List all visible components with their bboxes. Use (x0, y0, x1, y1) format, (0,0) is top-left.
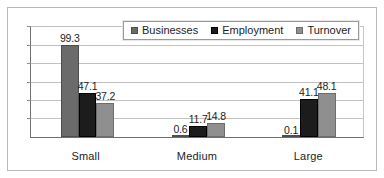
x-axis-labels: Small Medium Large (30, 150, 364, 162)
legend-item-businesses[interactable]: Businesses (131, 24, 198, 36)
legend-swatch-icon (211, 27, 218, 34)
x-axis-label-medium: Medium (141, 150, 252, 162)
bar-value-label: 11.7 (189, 113, 208, 125)
legend-item-employment[interactable]: Employment (211, 24, 283, 36)
bar-employment-small[interactable] (79, 93, 97, 137)
bar-wrap: 41.1 (300, 26, 318, 137)
x-axis-label-small: Small (30, 150, 141, 162)
chart-legend: Businesses Employment Turnover (123, 21, 359, 40)
legend-label: Businesses (142, 24, 198, 36)
bar-value-label: 99.3 (60, 32, 80, 44)
legend-swatch-icon (296, 27, 303, 34)
bar-turnover-small[interactable] (96, 103, 114, 137)
legend-item-turnover[interactable]: Turnover (296, 24, 351, 36)
bar-value-label: 0.6 (173, 123, 187, 135)
bar-turnover-large[interactable] (318, 93, 336, 137)
bar-wrap: 0.1 (282, 26, 300, 137)
chart-frame: 99.3 47.1 37.2 0.6 11. (7, 7, 377, 171)
x-axis-label-large: Large (253, 150, 364, 162)
bar-value-label: 37.2 (95, 90, 115, 102)
legend-swatch-icon (131, 27, 138, 34)
bar-wrap: 47.1 (79, 26, 97, 137)
bar-value-label: 41.1 (299, 86, 319, 98)
plot-area: 99.3 47.1 37.2 0.6 11. (30, 26, 364, 138)
bar-group-medium: 0.6 11.7 14.8 (142, 26, 253, 137)
bar-wrap: 0.6 (172, 26, 190, 137)
bar-employment-large[interactable] (300, 99, 318, 137)
bar-employment-medium[interactable] (189, 126, 207, 137)
bar-businesses-small[interactable] (61, 45, 79, 137)
bar-value-label: 47.1 (78, 80, 98, 92)
bar-value-label: 14.8 (206, 110, 226, 122)
bar-value-label: 0.1 (284, 124, 298, 136)
bar-group-large: 0.1 41.1 48.1 (252, 26, 363, 137)
legend-label: Turnover (307, 24, 351, 36)
bar-wrap: 14.8 (207, 26, 225, 137)
bar-wrap: 48.1 (318, 26, 336, 137)
bar-value-label: 48.1 (317, 80, 337, 92)
bar-group-small: 99.3 47.1 37.2 (31, 26, 142, 137)
bar-wrap: 37.2 (96, 26, 114, 137)
bar-wrap: 99.3 (61, 26, 79, 137)
bar-wrap: 11.7 (189, 26, 207, 137)
bar-turnover-medium[interactable] (207, 123, 225, 137)
legend-label: Employment (222, 24, 283, 36)
bar-groups: 99.3 47.1 37.2 0.6 11. (31, 26, 363, 137)
